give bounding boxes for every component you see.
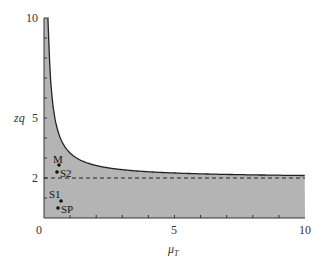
y-tick-10: 10 [26, 11, 38, 25]
y-axis-title: zq [13, 111, 25, 125]
point-S2-label: S2 [60, 167, 72, 179]
point-SP [56, 206, 60, 210]
x-tick-0: 0 [36, 223, 42, 237]
y-tick-5: 5 [32, 111, 38, 125]
x-tick-5: 5 [171, 223, 177, 237]
point-S1-label: S1 [49, 188, 61, 200]
point-SP-label: SP [61, 203, 73, 215]
x-tick-10: 10 [299, 223, 311, 237]
point-M-label: M [53, 153, 63, 165]
shaded-region [44, 18, 305, 218]
point-S2 [55, 170, 59, 174]
chart: 10 5 2 0 5 10 zq μT M S2 S1 SP [0, 0, 326, 264]
x-axis-title-main: μ [167, 242, 174, 256]
y-tick-2: 2 [32, 171, 38, 185]
boundary-curve [47, 18, 304, 176]
x-axis-title: μT [167, 242, 179, 258]
x-axis-title-sub: T [174, 249, 179, 258]
